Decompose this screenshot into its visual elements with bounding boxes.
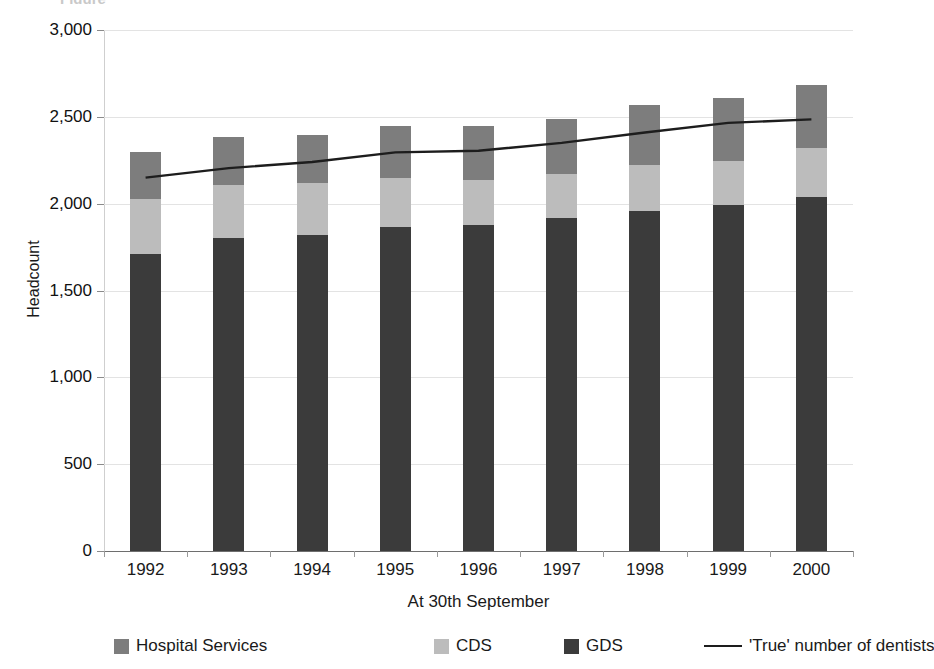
y-tick-label: 3,000 — [49, 21, 92, 38]
x-tick-mark — [770, 551, 771, 557]
x-tick-mark — [520, 551, 521, 557]
y-tick-label: 2,500 — [49, 108, 92, 125]
y-tick-label: 1,000 — [49, 368, 92, 385]
legend-line-marker-icon — [704, 645, 742, 647]
bar-segment — [380, 227, 411, 551]
legend-square-marker-icon — [564, 639, 579, 654]
bar-segment — [463, 225, 494, 551]
bar-segment — [796, 148, 827, 197]
bar-segment — [713, 205, 744, 551]
bar-segment — [380, 126, 411, 177]
legend-square-marker-icon — [434, 639, 449, 654]
bar-segment — [213, 137, 244, 185]
x-tick-mark — [270, 551, 271, 557]
bar-segment — [130, 152, 161, 199]
axis-baseline — [104, 551, 853, 552]
x-tick-label: 1993 — [194, 560, 264, 580]
legend-item-label: 'True' number of dentists — [749, 636, 934, 656]
y-tick-mark — [97, 204, 104, 205]
x-tick-mark — [437, 551, 438, 557]
bar-segment — [297, 235, 328, 551]
legend-item-label: CDS — [456, 636, 492, 656]
x-tick-label: 1992 — [111, 560, 181, 580]
legend-item[interactable]: 'True' number of dentists — [704, 636, 934, 656]
y-tick-mark — [97, 117, 104, 118]
y-tick-mark — [97, 377, 104, 378]
x-tick-mark — [687, 551, 688, 557]
legend-item[interactable]: GDS — [564, 636, 623, 656]
y-tick-label: 1,500 — [49, 282, 92, 299]
legend-item-label: Hospital Services — [136, 636, 267, 656]
bar-segment — [130, 199, 161, 254]
bar-segment — [297, 135, 328, 183]
plot-area — [104, 30, 853, 551]
bar-segment — [130, 254, 161, 551]
x-tick-mark — [354, 551, 355, 557]
x-axis-title: At 30th September — [104, 592, 853, 612]
y-axis-labels: 3,0002,5002,0001,5001,0005000 — [0, 0, 92, 669]
y-tick-label: 500 — [64, 455, 92, 472]
legend-square-marker-icon — [114, 639, 129, 654]
bar-segment — [380, 178, 411, 227]
y-axis-title: Headcount — [25, 219, 43, 339]
y-tick-label: 0 — [83, 542, 92, 559]
x-tick-mark — [187, 551, 188, 557]
y-tick-mark — [97, 551, 104, 552]
bar-segment — [629, 165, 660, 211]
x-tick-mark — [853, 551, 854, 557]
x-tick-mark — [104, 551, 105, 557]
y-tick-label: 2,000 — [49, 195, 92, 212]
bar-segment — [463, 126, 494, 180]
x-tick-label: 1997 — [527, 560, 597, 580]
x-tick-label: 1998 — [610, 560, 680, 580]
y-tick-mark — [97, 464, 104, 465]
bar-segment — [796, 197, 827, 551]
legend-item[interactable]: CDS — [434, 636, 492, 656]
x-tick-mark — [603, 551, 604, 557]
bar-segment — [546, 174, 577, 218]
gridline — [104, 30, 853, 31]
bar-segment — [629, 211, 660, 551]
bar-segment — [213, 185, 244, 238]
x-tick-label: 1995 — [360, 560, 430, 580]
bar-segment — [713, 98, 744, 161]
bar-segment — [463, 180, 494, 225]
bar-segment — [713, 161, 744, 204]
x-tick-label: 1996 — [444, 560, 514, 580]
x-tick-label: 1999 — [693, 560, 763, 580]
x-tick-label: 2000 — [776, 560, 846, 580]
bar-segment — [297, 183, 328, 235]
legend-item[interactable]: Hospital Services — [114, 636, 267, 656]
bar-segment — [546, 218, 577, 551]
chart-legend: Hospital ServicesCDSGDS'True' number of … — [104, 636, 863, 662]
bar-segment — [629, 105, 660, 166]
bar-segment — [546, 119, 577, 175]
bar-segment — [213, 238, 244, 551]
bar-segment — [796, 85, 827, 148]
legend-item-label: GDS — [586, 636, 623, 656]
y-tick-mark — [97, 30, 104, 31]
y-tick-mark — [97, 291, 104, 292]
x-tick-label: 1994 — [277, 560, 347, 580]
